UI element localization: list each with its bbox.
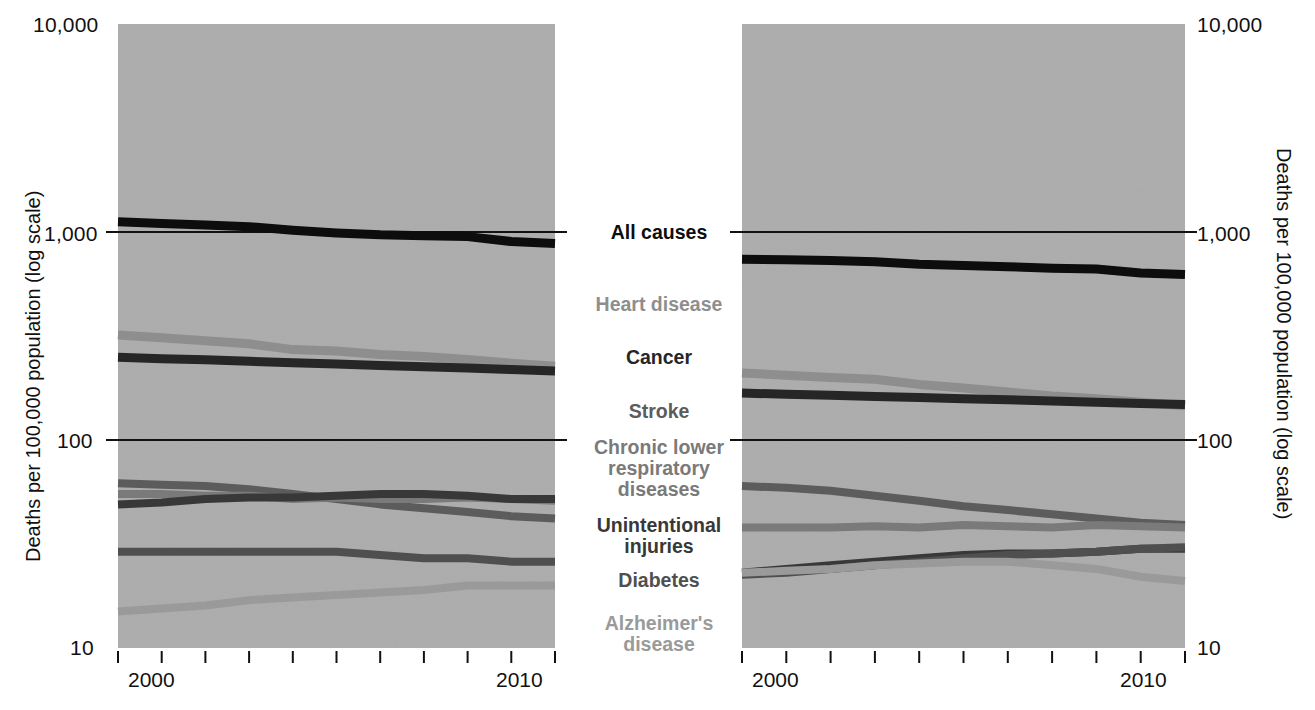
legend-item-heart-disease: Heart disease	[561, 294, 757, 315]
legend-item-stroke: Stroke	[561, 401, 757, 422]
legend-item-cancer: Cancer	[561, 347, 757, 368]
series-line-chronic-lower-respiratory-diseases-female	[742, 525, 1185, 527]
legend-item-all-causes: All causes	[561, 222, 757, 243]
legend-item-chronic-lower-respiratory-diseases: Chronic lower respiratory diseases	[561, 437, 757, 500]
legend-item-unintentional-injuries: Unintentional injuries	[561, 515, 757, 557]
legend-item-diabetes: Diabetes	[561, 570, 757, 591]
legend-item-alzheimers-disease: Alzheimer's disease	[561, 613, 757, 655]
